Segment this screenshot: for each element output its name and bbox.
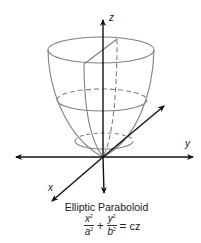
y-fraction: y2 b2 (107, 214, 117, 238)
equals-sign: = (120, 219, 127, 233)
middle-ellipse-back (57, 89, 147, 100)
top-rim-ellipse (48, 37, 154, 63)
x-axis-back (103, 106, 164, 157)
y-axis-label: y (185, 138, 190, 149)
a-exponent: 2 (90, 226, 93, 232)
x-fraction: x2 a2 (84, 214, 94, 238)
x-axis-label: x (48, 182, 53, 193)
figure-title: Elliptic Paraboloid (0, 201, 201, 213)
x-axis-front (52, 157, 103, 201)
plus-sign: + (97, 219, 104, 233)
section-top-diagonal (84, 39, 117, 64)
middle-ellipse-front (57, 100, 147, 111)
right-silhouette (103, 50, 154, 157)
paraboloid-equation: x2 a2 + y2 b2 = cz (84, 214, 141, 238)
equation-rhs: cz (130, 220, 141, 232)
x-exponent: 2 (90, 213, 93, 219)
elliptic-paraboloid-figure: z y x Elliptic Paraboloid x2 a2 + y2 b2 … (0, 0, 201, 243)
b-exponent: 2 (113, 226, 116, 232)
back-meridian (103, 39, 117, 157)
z-axis-down (103, 157, 104, 193)
paraboloid-surface (48, 37, 154, 157)
z-axis-label: z (109, 12, 114, 23)
y-exponent: 2 (113, 213, 116, 219)
